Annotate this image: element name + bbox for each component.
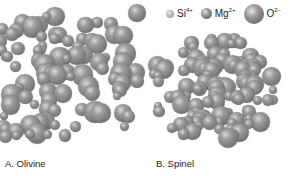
legend-label-mg: Mg2+ — [215, 8, 236, 19]
legend-item-mg: Mg2+ — [201, 8, 236, 19]
atom-sphere — [178, 128, 189, 139]
atom-sphere — [11, 42, 24, 55]
ion-legend: Si4+ Mg2+ O2− — [166, 4, 289, 24]
atom-sphere — [0, 112, 8, 120]
legend-item-o: O2− — [244, 4, 282, 24]
atom-sphere — [113, 92, 121, 100]
atom-sphere — [12, 131, 20, 139]
atom-sphere — [96, 62, 110, 76]
atom-sphere — [0, 130, 12, 143]
atom-sphere — [178, 65, 189, 76]
atom-sphere — [193, 84, 202, 93]
atom-sphere — [269, 86, 277, 94]
atom-sphere — [262, 67, 281, 86]
atom-sphere — [167, 123, 177, 133]
atom-sphere — [128, 4, 146, 22]
mg-ion-icon — [201, 8, 212, 19]
atom-sphere — [251, 112, 271, 132]
legend-item-si: Si4+ — [166, 8, 193, 19]
atom-sphere — [43, 130, 52, 139]
atom-sphere — [122, 110, 135, 123]
caption-olivine: A. Olivine — [5, 158, 46, 169]
atom-sphere — [49, 33, 60, 44]
atom-sphere — [153, 106, 165, 118]
o-ion-icon — [244, 4, 264, 24]
atom-sphere — [262, 94, 274, 106]
atom-sphere — [30, 100, 39, 109]
atom-sphere — [10, 61, 21, 72]
atom-sphere — [5, 27, 19, 41]
atom-sphere — [59, 129, 72, 142]
atom-sphere — [218, 128, 238, 148]
atom-sphere — [233, 93, 244, 104]
legend-label-si: Si4+ — [177, 8, 193, 19]
atom-sphere — [70, 121, 81, 132]
atom-sphere — [234, 37, 247, 50]
atom-sphere — [90, 103, 111, 124]
olivine-structure-model — [0, 12, 145, 147]
atom-sphere — [227, 39, 236, 48]
spinel-structure-model — [150, 36, 293, 151]
atom-sphere — [130, 74, 143, 87]
atom-sphere — [77, 17, 94, 34]
atom-sphere — [2, 51, 12, 61]
si-ion-icon — [166, 10, 174, 18]
legend-label-o: O2− — [267, 8, 282, 19]
atom-sphere — [25, 129, 34, 138]
atom-sphere — [84, 85, 101, 102]
atom-sphere — [47, 65, 67, 85]
atom-sphere — [50, 120, 60, 130]
atom-sphere — [153, 76, 164, 87]
atom-sphere — [120, 122, 129, 131]
caption-spinel: B. Spinel — [156, 158, 194, 169]
atom-sphere — [253, 96, 262, 105]
